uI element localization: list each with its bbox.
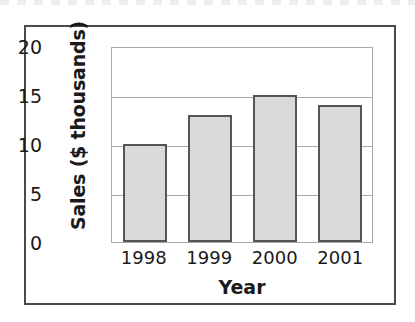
bar-2000[interactable] <box>253 95 297 242</box>
bar-2001[interactable] <box>318 105 362 242</box>
chart-figure-frame: Sales ($ thousands) 05101520 19981999200… <box>24 25 396 305</box>
bar-1998[interactable] <box>123 144 167 242</box>
y-tick-label-0: 0 <box>0 232 42 254</box>
bar-slot <box>307 48 372 242</box>
x-tick-label-1999: 1999 <box>177 247 243 268</box>
y-tick-label-20: 20 <box>0 36 42 58</box>
y-tick-label-5: 5 <box>0 183 42 205</box>
x-axis-tick-labels: 1998199920002001 <box>111 247 373 268</box>
plot-area <box>111 47 373 243</box>
y-tick-label-10: 10 <box>0 134 42 156</box>
x-tick-label-1998: 1998 <box>111 247 177 268</box>
bar-series <box>112 48 372 242</box>
bar-slot <box>242 48 307 242</box>
bar-slot <box>112 48 177 242</box>
y-axis-title: Sales ($ thousands) <box>67 30 89 230</box>
x-tick-label-2000: 2000 <box>242 247 308 268</box>
x-axis-title: Year <box>111 276 373 298</box>
y-tick-label-15: 15 <box>0 85 42 107</box>
bar-1999[interactable] <box>188 115 232 242</box>
cropped-caption-strip <box>0 0 415 5</box>
bar-slot <box>177 48 242 242</box>
x-tick-label-2001: 2001 <box>308 247 374 268</box>
